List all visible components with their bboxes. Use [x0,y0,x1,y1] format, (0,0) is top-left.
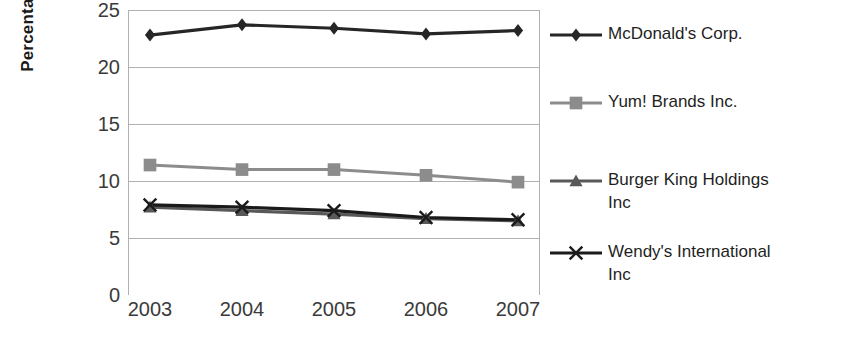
y-tick-label: 15 [98,113,120,136]
line-chart: Percentage 2520151050 200320042005200620… [0,0,847,346]
x-tick-label: 2005 [312,298,357,321]
data-point-square [328,163,341,176]
data-point-diamond [571,29,581,42]
legend-marker-x-icon [548,242,604,264]
data-point-square [512,176,525,189]
legend-label-1: Yum! Brands Inc. [604,90,737,113]
x-tick-label: 2004 [220,298,265,321]
legend-marker-triangle-icon [548,170,604,192]
y-axis-ticks: 2520151050 [60,10,128,295]
plot-area: 2520151050 20032004200520062007 [60,10,540,330]
y-tick-label: 0 [109,284,120,307]
data-point-square [570,97,583,110]
data-point-square [420,169,433,182]
data-point-diamond [237,18,247,31]
x-tick-label: 2006 [404,298,449,321]
data-point-diamond [421,27,431,40]
x-tick-label: 2003 [128,298,173,321]
legend-label-3: Wendy's International Inc [604,240,771,286]
data-point-diamond [329,22,339,35]
y-axis-title: Percentage [18,0,38,95]
plot-canvas [128,10,540,295]
y-tick-label: 20 [98,56,120,79]
data-point-square [236,163,249,176]
y-tick-label: 10 [98,170,120,193]
y-tick-label: 5 [109,227,120,250]
legend-item-2[interactable]: Burger King Holdings Inc [548,168,769,214]
data-point-square [144,159,157,172]
legend-label-2: Burger King Holdings Inc [604,168,769,214]
y-tick-label: 25 [98,0,120,22]
legend-label-0: McDonald's Corp. [604,22,743,45]
data-point-diamond [145,29,155,42]
data-point-diamond [513,24,523,37]
legend-item-0[interactable]: McDonald's Corp. [548,22,743,46]
x-tick-label: 2007 [496,298,541,321]
legend-marker-diamond-icon [548,24,604,46]
legend-marker-square-icon [548,92,604,114]
x-axis-ticks: 20032004200520062007 [128,298,540,338]
legend-item-3[interactable]: Wendy's International Inc [548,240,771,286]
legend-item-1[interactable]: Yum! Brands Inc. [548,90,737,114]
